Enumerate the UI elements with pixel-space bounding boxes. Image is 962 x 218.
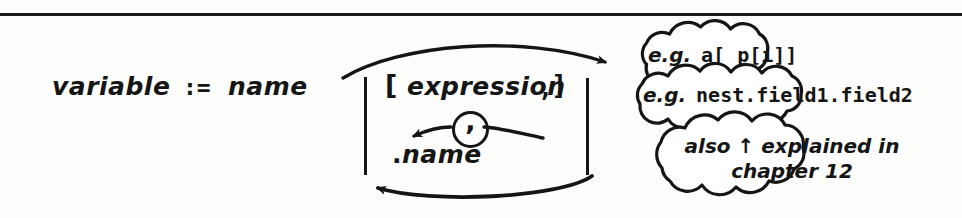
alternation-bar-right: [586, 78, 589, 175]
leading-dot: .: [392, 140, 402, 169]
field-selector-branch: .name: [392, 140, 482, 169]
eg-prefix-2: e.g.: [643, 83, 686, 107]
assignment-operator: :=: [183, 74, 211, 100]
open-bracket: [: [385, 69, 397, 100]
horizontal-rule: [0, 13, 962, 16]
alternation-bar-left: [364, 77, 367, 175]
eg-code-1: a[ p[i]]: [701, 43, 797, 67]
annotation-eg-index: e.g.a[ p[i]]: [648, 43, 797, 67]
alternative-name: name: [228, 72, 308, 101]
eg-prefix-1: e.g.: [648, 43, 691, 67]
field-name: name: [402, 140, 482, 169]
syntax-diagram-page: variable := name [ expression , ] , .nam…: [0, 0, 962, 218]
cropped-text-above: [4, 0, 214, 11]
close-bracket: ]: [551, 69, 567, 100]
comma-glyph: ,: [455, 105, 486, 136]
annotation-chapter-note: also ↑ explained inchapter 12: [667, 134, 917, 184]
loopback-arc-bottom: [378, 176, 592, 197]
chapter-note-line-1: also ↑ explained in: [685, 134, 900, 158]
chapter-note-line-2: chapter 12: [731, 159, 853, 183]
eg-code-2: nest.field1.field2: [696, 83, 913, 107]
nonterminal-variable: variable: [52, 72, 170, 101]
annotation-eg-field: e.g.nest.field1.field2: [643, 83, 913, 107]
